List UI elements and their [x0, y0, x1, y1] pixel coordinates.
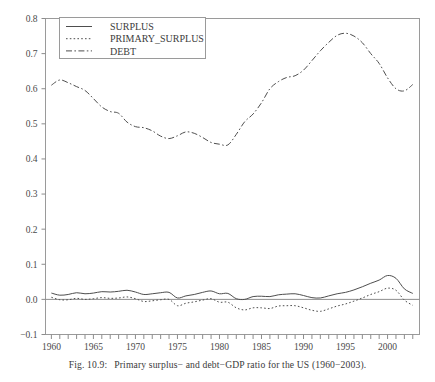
y-tick-label: 0.0: [26, 295, 38, 305]
y-tick-label: 0.6: [26, 84, 38, 94]
x-tick-label: 1970: [126, 342, 145, 352]
y-axis-tick-labels: 0.80.70.60.50.40.30.20.10.0−0.1: [20, 14, 37, 340]
x-tick-label: 1980: [210, 342, 229, 352]
y-tick-label: 0.1: [26, 260, 38, 270]
x-tick-label: 1985: [252, 342, 271, 352]
figure-container: 0.80.70.60.50.40.30.20.10.0−0.1 19601965…: [0, 0, 435, 382]
x-tick-label: 1960: [42, 342, 61, 352]
legend-label-primary_surplus: PRIMARY_SURPLUS: [110, 33, 204, 44]
x-tick-label: 1990: [294, 342, 313, 352]
x-tick-label: 1975: [168, 342, 187, 352]
legend-label-surplus: SURPLUS: [110, 21, 154, 32]
figure-caption: Fig. 10.9:Primary surplus− and debt−GDP …: [0, 359, 435, 370]
x-tick-label: 1995: [336, 342, 355, 352]
y-tick-label: −0.1: [20, 330, 37, 340]
y-tick-label: 0.2: [26, 225, 38, 235]
legend-label-debt: DEBT: [110, 46, 136, 57]
chart-plot: 0.80.70.60.50.40.30.20.10.0−0.1 19601965…: [0, 0, 435, 382]
caption-number: Fig. 10.9:: [69, 359, 108, 370]
y-tick-label: 0.7: [26, 49, 38, 59]
x-tick-label: 1965: [84, 342, 103, 352]
x-axis-tick-labels: 196019651970197519801985199019952000: [42, 342, 397, 352]
axis-frame: [46, 19, 420, 335]
x-tick-label: 2000: [378, 342, 397, 352]
caption-text: Primary surplus− and debt−GDP ratio for …: [114, 359, 366, 370]
legend: SURPLUSPRIMARY_SURPLUSDEBT: [60, 18, 206, 59]
data-series-group: [51, 33, 412, 311]
y-tick-label: 0.5: [26, 119, 38, 129]
y-tick-label: 0.4: [26, 154, 38, 164]
y-tick-label: 0.3: [26, 189, 38, 199]
y-tick-label: 0.8: [26, 14, 38, 24]
series-line-surplus: [51, 275, 412, 299]
x-axis-ticks: [51, 335, 412, 340]
y-axis-ticks: [42, 19, 46, 335]
